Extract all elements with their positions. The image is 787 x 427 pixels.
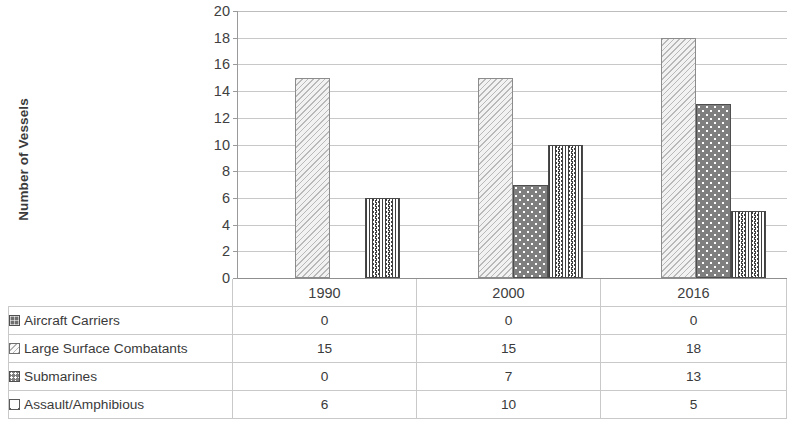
- bar: [478, 78, 513, 278]
- x-axis-category-label: 2016: [601, 279, 787, 307]
- y-axis-tick-label: 4: [196, 217, 230, 232]
- table-cell-value: 10: [417, 391, 601, 419]
- y-axis-tickmark: [233, 64, 238, 65]
- x-axis-category-label: 1990: [233, 279, 417, 307]
- table-row: Large Surface Combatants151518: [9, 335, 787, 363]
- table-cell-value: 5: [601, 391, 787, 419]
- table-header-blank: [9, 279, 233, 307]
- y-axis-tick-label: 2: [196, 244, 230, 259]
- table-cell-value: 0: [233, 307, 417, 335]
- gridline: [238, 11, 787, 12]
- legend-row-label: Aircraft Carriers: [9, 307, 233, 335]
- y-axis-tick-labels: 20181614121086420: [196, 0, 230, 290]
- y-axis-tickmark: [233, 198, 238, 199]
- y-axis-tick-label: 12: [196, 111, 230, 126]
- table-cell-value: 0: [417, 307, 601, 335]
- legend-label-text: Large Surface Combatants: [24, 341, 188, 356]
- bar: [548, 145, 583, 279]
- y-axis-tickmark: [233, 145, 238, 146]
- plot-region: 20181614121086420: [0, 0, 786, 296]
- y-axis-tick-label: 18: [196, 30, 230, 45]
- y-axis-tick-label: 14: [196, 84, 230, 99]
- table-cell-value: 13: [601, 363, 787, 391]
- legend-label-text: Aircraft Carriers: [24, 313, 120, 328]
- table-row: Assault/Amphibious6105: [9, 391, 787, 419]
- y-axis-tickmark: [233, 91, 238, 92]
- plot-area: [237, 11, 786, 278]
- table-header-row: 199020002016: [9, 279, 787, 307]
- bar: [295, 78, 330, 278]
- legend-swatch-icon: [9, 343, 20, 354]
- y-axis-tickmark: [233, 251, 238, 252]
- bar: [696, 104, 731, 278]
- y-axis-tick-label: 6: [196, 191, 230, 206]
- table-cell-value: 15: [417, 335, 601, 363]
- y-axis-tickmark: [233, 171, 238, 172]
- legend-row-label: Large Surface Combatants: [9, 335, 233, 363]
- legend-swatch-icon: [9, 371, 20, 382]
- bar: [513, 185, 548, 278]
- y-axis-tick-label: 20: [196, 4, 230, 19]
- table-cell-value: 6: [233, 391, 417, 419]
- y-axis-tickmark: [233, 38, 238, 39]
- data-table: 199020002016Aircraft Carriers000Large Su…: [8, 279, 787, 419]
- bar: [731, 211, 766, 278]
- gridline: [238, 64, 787, 65]
- y-axis-tickmark: [233, 11, 238, 12]
- legend-row-label: Assault/Amphibious: [9, 391, 233, 419]
- x-axis-category-label: 2000: [417, 279, 601, 307]
- legend-row-label: Submarines: [9, 363, 233, 391]
- legend-label-text: Submarines: [24, 369, 97, 384]
- y-axis-tick-label: 16: [196, 57, 230, 72]
- y-axis-tick-label: 8: [196, 164, 230, 179]
- gridline: [238, 38, 787, 39]
- table-cell-value: 18: [601, 335, 787, 363]
- legend-label-text: Assault/Amphibious: [24, 397, 144, 412]
- bar: [365, 198, 400, 278]
- table-row: Submarines0713: [9, 363, 787, 391]
- table-cell-value: 0: [233, 363, 417, 391]
- table-cell-value: 15: [233, 335, 417, 363]
- y-axis-tick-label: 10: [196, 137, 230, 152]
- y-axis-tickmark: [233, 225, 238, 226]
- legend-swatch-icon: [9, 315, 20, 326]
- bar: [661, 38, 696, 278]
- table-cell-value: 7: [417, 363, 601, 391]
- table-cell-value: 0: [601, 307, 787, 335]
- table-row: Aircraft Carriers000: [9, 307, 787, 335]
- legend-swatch-icon: [9, 399, 20, 410]
- y-axis-tickmark: [233, 118, 238, 119]
